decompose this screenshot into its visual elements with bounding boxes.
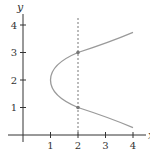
parabola-chart: 1 2 3 4 1 2 3 4 y x xyxy=(0,0,150,154)
y-tick-label: 4 xyxy=(11,20,17,31)
parabola-curve xyxy=(51,32,134,127)
y-tick-label: 2 xyxy=(11,75,17,86)
x-tick-label: 2 xyxy=(75,140,81,151)
y-tick-label: 1 xyxy=(11,102,17,113)
intersection-point-y1 xyxy=(76,106,80,110)
x-tick-label: 3 xyxy=(102,140,108,151)
y-tick-label: 3 xyxy=(11,47,17,58)
x-axis-label: x xyxy=(148,129,150,142)
intersection-point-y3 xyxy=(76,51,80,55)
y-axis-label: y xyxy=(16,1,24,14)
x-tick-label: 4 xyxy=(130,140,136,151)
x-tick-label: 1 xyxy=(47,140,53,151)
